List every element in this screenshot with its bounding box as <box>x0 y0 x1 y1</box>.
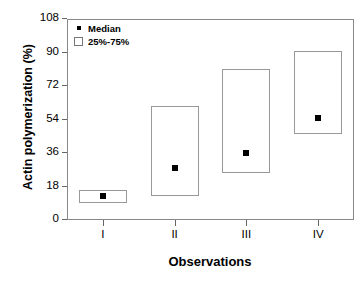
x-tick-mark <box>318 220 319 226</box>
x-tick-label: III <box>226 228 266 240</box>
y-tick-label: 18 <box>46 179 59 191</box>
legend-item-quartile: 25%-75% <box>73 35 129 47</box>
y-tick-label: 54 <box>46 112 59 124</box>
median-marker <box>172 165 178 171</box>
y-tick-label: 36 <box>46 145 59 157</box>
y-tick-mark <box>62 219 67 220</box>
median-marker <box>243 150 249 156</box>
y-tick-mark <box>62 85 67 86</box>
x-tick-label: IV <box>298 228 338 240</box>
chart-legend: Median 25%-75% <box>73 22 129 48</box>
legend-label-median: Median <box>88 23 121 34</box>
quartile-box <box>294 51 342 135</box>
quartile-box <box>222 69 270 173</box>
legend-item-median: Median <box>73 22 129 34</box>
box-marker-icon <box>73 37 84 46</box>
median-marker <box>100 193 106 199</box>
x-tick-label: II <box>155 228 195 240</box>
quartile-box <box>151 106 199 195</box>
x-tick-mark <box>103 220 104 226</box>
x-tick-mark <box>246 220 247 226</box>
y-tick-mark <box>62 152 67 153</box>
x-tick-label: I <box>83 228 123 240</box>
y-tick-label: 72 <box>46 78 59 90</box>
y-tick-mark <box>62 119 67 120</box>
median-marker-icon <box>73 26 84 30</box>
x-tick-mark <box>175 220 176 226</box>
y-tick-mark <box>62 18 67 19</box>
legend-label-quartile: 25%-75% <box>88 36 129 47</box>
y-tick-label: 90 <box>46 45 59 57</box>
x-axis-title: Observations <box>60 254 360 269</box>
y-tick-mark <box>62 186 67 187</box>
y-tick-mark <box>62 52 67 53</box>
y-tick-label: 108 <box>40 11 59 23</box>
y-axis-title: Actin polymerization (%) <box>21 7 35 227</box>
median-marker <box>315 115 321 121</box>
chart-figure: Actin polymerization (%) 01836547290108I… <box>0 0 362 282</box>
y-tick-label: 0 <box>53 212 59 224</box>
